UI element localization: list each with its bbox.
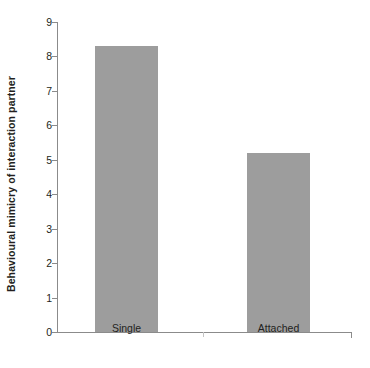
y-axis-title: Behavioural mimicry of interaction partn… (0, 0, 22, 368)
y-axis-line (57, 22, 58, 332)
y-tick-label: 3 (46, 223, 52, 234)
y-tick-mark (52, 160, 57, 161)
y-tick-label: 6 (46, 120, 52, 131)
y-tick-mark (52, 332, 57, 333)
y-tick-mark (52, 263, 57, 264)
y-tick-label: 5 (46, 155, 52, 166)
y-tick-mark (52, 194, 57, 195)
y-tick-mark (52, 22, 57, 23)
y-tick-label: 7 (46, 86, 52, 97)
x-label-single: Single (112, 322, 141, 334)
x-axis-end-tick (351, 332, 352, 338)
bar-attached (247, 153, 310, 332)
y-tick-label: 4 (46, 189, 52, 200)
y-tick-label: 9 (46, 17, 52, 28)
x-mid-tick-mark (203, 332, 204, 337)
y-tick-label: 2 (46, 258, 52, 269)
y-tick-label: 1 (46, 292, 52, 303)
bar-single (95, 46, 158, 332)
y-tick-label: 8 (46, 51, 52, 62)
x-axis-line (57, 332, 352, 333)
y-axis-title-text: Behavioural mimicry of interaction partn… (5, 76, 17, 292)
y-tick-mark (52, 298, 57, 299)
y-tick-mark (52, 229, 57, 230)
y-tick-mark (52, 56, 57, 57)
plot-area: 0123456789 (57, 22, 352, 332)
y-tick-mark (52, 91, 57, 92)
bar-chart-figure: Behavioural mimicry of interaction partn… (0, 0, 370, 368)
x-label-attached: Attached (258, 322, 299, 334)
y-tick-label: 0 (46, 327, 52, 338)
y-tick-mark (52, 125, 57, 126)
